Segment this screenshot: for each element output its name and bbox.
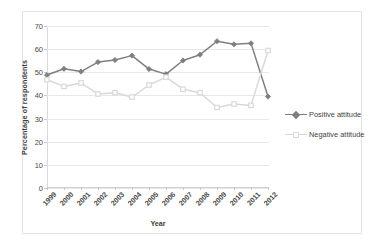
x-tick-mark — [47, 187, 48, 190]
legend-label: Positive attitude — [309, 110, 361, 119]
x-tick-mark — [166, 187, 167, 190]
x-tick-label: 2010 — [228, 190, 246, 208]
series-negative-attitude — [45, 48, 270, 109]
x-tick-mark — [132, 187, 133, 190]
y-tick-label: 50 — [35, 68, 43, 77]
y-tick-label: 40 — [35, 91, 43, 100]
x-tick-label: 2000 — [58, 190, 76, 208]
x-tick-mark — [64, 187, 65, 190]
x-axis-title: Year — [47, 219, 269, 228]
x-tick-label: 2009 — [211, 190, 229, 208]
legend-swatch-diamond-icon — [285, 110, 307, 120]
x-tick-label: 2002 — [92, 190, 110, 208]
plot-area: 010203040506070 — [47, 26, 269, 188]
x-tick-label: 2006 — [160, 190, 178, 208]
x-tick-label: 2004 — [126, 190, 144, 208]
x-tick-mark — [98, 187, 99, 190]
x-tick-mark — [200, 187, 201, 190]
legend-item[interactable]: Positive attitude — [285, 109, 383, 120]
chart-screenshot: Percentage of respondents 01020304050607… — [0, 0, 389, 251]
y-axis-title: Percentage of respondents — [19, 26, 31, 188]
y-tick-label: 10 — [35, 160, 43, 169]
x-tick-mark — [81, 187, 82, 190]
x-tick-mark — [217, 187, 218, 190]
x-tick-mark — [115, 187, 116, 190]
x-tick-label: 2005 — [143, 190, 161, 208]
y-tick-label: 0 — [39, 184, 43, 193]
legend-marker — [292, 110, 300, 118]
x-tick-mark — [234, 187, 235, 190]
x-tick-label: 2011 — [245, 190, 262, 207]
y-tick-label: 20 — [35, 137, 43, 146]
series-lines — [47, 26, 269, 188]
x-tick-mark — [149, 187, 150, 190]
y-tick-label: 70 — [35, 22, 43, 31]
y-axis-title-label: Percentage of respondents — [21, 59, 30, 154]
x-tick-mark — [268, 187, 269, 190]
x-tick-label: 2001 — [75, 190, 93, 208]
legend-label: Negative attitude — [309, 130, 364, 139]
x-tick-mark — [251, 187, 252, 190]
y-tick-label: 60 — [35, 45, 43, 54]
x-tick-label: 2007 — [177, 190, 195, 208]
x-tick-mark — [183, 187, 184, 190]
legend-marker — [293, 132, 299, 138]
series-positive-attitude — [44, 39, 270, 100]
x-tick-label: 2008 — [194, 190, 212, 208]
legend-swatch-square-icon — [285, 130, 307, 140]
x-tick-label: 2003 — [109, 190, 127, 208]
chart-legend: Positive attitudeNegative attitude — [285, 109, 383, 149]
y-tick-label: 30 — [35, 114, 43, 123]
x-axis-tick-labels: 1999200020012002200320042005200620072008… — [47, 190, 269, 222]
legend-item[interactable]: Negative attitude — [285, 129, 383, 140]
